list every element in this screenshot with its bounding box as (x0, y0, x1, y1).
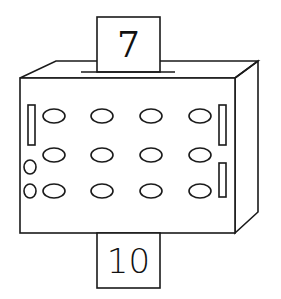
input-value: 7 (97, 22, 160, 68)
output-value: 10 (97, 238, 160, 284)
box-front-face (20, 78, 235, 233)
box-side-face (235, 61, 258, 233)
